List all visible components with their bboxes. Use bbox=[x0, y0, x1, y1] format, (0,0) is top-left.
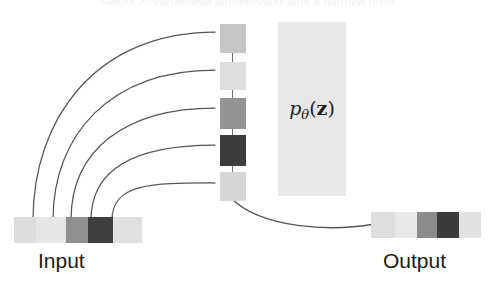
encoder-arc-1 bbox=[33, 32, 215, 220]
prior-distribution-box: pθ(z) bbox=[278, 22, 346, 196]
prior-label-theta: θ bbox=[301, 106, 309, 121]
decoder-arc bbox=[232, 199, 374, 228]
input-bar-segment-2 bbox=[36, 217, 66, 243]
latent-unit-3 bbox=[220, 98, 246, 129]
output-label: Output bbox=[383, 249, 446, 273]
latent-unit-1 bbox=[220, 24, 246, 53]
latent-unit-4 bbox=[220, 135, 246, 166]
input-label: Input bbox=[38, 249, 85, 273]
encoder-arc-2 bbox=[53, 70, 215, 220]
decoder-arc-group bbox=[232, 199, 374, 228]
cropped-caption-text: Figure 2: Variational autoencoder with a… bbox=[0, 0, 495, 5]
output-bar-segment-5 bbox=[459, 212, 481, 238]
prior-label-close-paren: ) bbox=[327, 97, 334, 119]
input-bar-segment-3 bbox=[66, 217, 88, 243]
encoder-arc-3 bbox=[71, 108, 215, 220]
encoder-arc-4 bbox=[91, 145, 215, 220]
output-bar-segment-3 bbox=[417, 212, 437, 238]
latent-unit-5 bbox=[220, 172, 246, 201]
input-bar-segment-4 bbox=[88, 217, 113, 243]
prior-label-open-paren: ( bbox=[309, 97, 316, 119]
output-bar-segment-2 bbox=[395, 212, 417, 238]
prior-distribution-label: pθ(z) bbox=[289, 97, 335, 122]
prior-label-z: z bbox=[317, 97, 328, 119]
encoder-arc-5 bbox=[112, 183, 215, 220]
vae-architecture-diagram: Figure 2: Variational autoencoder with a… bbox=[0, 0, 495, 283]
output-bar-segment-4 bbox=[437, 212, 459, 238]
input-bar-segment-5 bbox=[113, 217, 142, 243]
latent-connector-stem-1 bbox=[232, 53, 233, 62]
encoder-arc-group bbox=[33, 32, 215, 220]
input-bar-segment-1 bbox=[14, 217, 36, 243]
output-data-bar bbox=[371, 212, 481, 238]
latent-variable-column bbox=[220, 23, 246, 201]
prior-label-p: p bbox=[289, 97, 301, 119]
latent-connector-stem-2 bbox=[232, 90, 233, 98]
input-data-bar bbox=[14, 217, 142, 243]
latent-unit-2 bbox=[220, 62, 246, 90]
output-bar-segment-1 bbox=[371, 212, 395, 238]
